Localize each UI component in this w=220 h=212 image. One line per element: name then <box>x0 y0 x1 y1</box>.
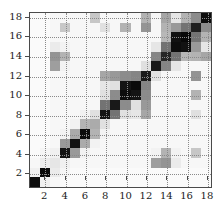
heatmap-cell <box>110 139 120 149</box>
heatmap-cell <box>110 100 120 110</box>
heatmap-cell <box>50 139 60 149</box>
heatmap-cell <box>161 81 171 91</box>
heatmap-cell <box>131 110 141 120</box>
heatmap-cell <box>201 100 211 110</box>
y-axis-tick <box>25 76 29 77</box>
heatmap-cell <box>131 139 141 149</box>
heatmap-cell <box>60 100 70 110</box>
heatmap-cell <box>30 13 40 23</box>
heatmap-cell <box>171 139 181 149</box>
heatmap-cell <box>100 119 110 129</box>
heatmap-cell <box>201 129 211 139</box>
heatmap-cell <box>161 61 171 71</box>
heatmap-cell <box>80 13 90 23</box>
heatmap-cell <box>100 139 110 149</box>
heatmap-cell <box>70 42 80 52</box>
heatmap-cell <box>181 100 191 110</box>
heatmap-cell <box>30 23 40 33</box>
heatmap-cell <box>50 32 60 42</box>
heatmap-cell <box>80 158 90 168</box>
heatmap-cell <box>40 42 50 52</box>
heatmap-cell <box>151 32 161 42</box>
heatmap-cell <box>131 42 141 52</box>
heatmap-cell <box>141 23 151 33</box>
heatmap-cell <box>171 168 181 178</box>
heatmap-cell <box>141 42 151 52</box>
x-axis-tick <box>207 176 208 180</box>
heatmap-cell <box>141 61 151 71</box>
heatmap-cell <box>90 52 100 62</box>
heatmap-cell <box>171 177 181 187</box>
heatmap-cell <box>60 119 70 129</box>
heatmap-cell <box>30 129 40 139</box>
heatmap-cell <box>110 158 120 168</box>
y-axis-tick <box>25 56 29 57</box>
heatmap-cell <box>30 71 40 81</box>
heatmap-cell <box>60 23 70 33</box>
heatmap-cell <box>40 32 50 42</box>
heatmap-cell <box>50 129 60 139</box>
heatmap-cell <box>100 71 110 81</box>
heatmap-cell <box>40 148 50 158</box>
heatmap-cell <box>131 71 141 81</box>
heatmap-cell <box>141 52 151 62</box>
heatmap-cell <box>80 119 90 129</box>
heatmap-cell <box>90 148 100 158</box>
heatmap-cell <box>141 32 151 42</box>
heatmap-cell <box>161 23 171 33</box>
heatmap-cell <box>141 158 151 168</box>
y-axis-tick-label: 14 <box>0 50 22 61</box>
heatmap-cell <box>201 52 211 62</box>
y-axis-tick <box>25 134 29 135</box>
heatmap-cell <box>141 81 151 91</box>
heatmap-cell <box>131 13 141 23</box>
heatmap-cell <box>90 119 100 129</box>
heatmap-cell <box>171 158 181 168</box>
heatmap-cell <box>110 177 120 187</box>
heatmap-cell <box>191 52 201 62</box>
heatmap-cell <box>90 23 100 33</box>
heatmap-cell <box>80 100 90 110</box>
heatmap-cell <box>70 23 80 33</box>
heatmap-cell <box>161 13 171 23</box>
heatmap-cell <box>120 61 130 71</box>
heatmap-cell <box>171 42 181 52</box>
heatmap-cell <box>171 110 181 120</box>
heatmap-cell <box>80 90 90 100</box>
heatmap-cell <box>90 71 100 81</box>
heatmap-cell <box>151 100 161 110</box>
heatmap-cell <box>151 71 161 81</box>
heatmap-cell <box>70 168 80 178</box>
heatmap-cell <box>100 61 110 71</box>
heatmap-cell <box>70 129 80 139</box>
heatmap-cell <box>60 52 70 62</box>
heatmap-cell <box>40 61 50 71</box>
heatmap-cell <box>70 119 80 129</box>
heatmap-cell <box>30 100 40 110</box>
heatmap-cell <box>50 13 60 23</box>
heatmap-cell <box>191 158 201 168</box>
heatmap-cell <box>151 119 161 129</box>
heatmap-cell <box>131 81 141 91</box>
y-axis-tick-label: 12 <box>0 70 22 81</box>
heatmap-cell <box>181 42 191 52</box>
heatmap-cell <box>131 119 141 129</box>
heatmap-cell <box>191 139 201 149</box>
heatmap-cell <box>171 129 181 139</box>
heatmap-cell <box>70 148 80 158</box>
heatmap-cell <box>70 13 80 23</box>
heatmap-cell <box>151 139 161 149</box>
heatmap-cell <box>110 23 120 33</box>
heatmap-cell <box>181 71 191 81</box>
heatmap-cell <box>191 81 201 91</box>
heatmap-cell <box>80 81 90 91</box>
heatmap-cell <box>60 32 70 42</box>
heatmap-cell <box>131 23 141 33</box>
heatmap-cell <box>40 90 50 100</box>
heatmap-cell <box>151 158 161 168</box>
heatmap-cell <box>141 119 151 129</box>
heatmap-cell <box>151 42 161 52</box>
heatmap-cell <box>161 148 171 158</box>
heatmap-cell <box>181 90 191 100</box>
heatmap-cell <box>201 23 211 33</box>
